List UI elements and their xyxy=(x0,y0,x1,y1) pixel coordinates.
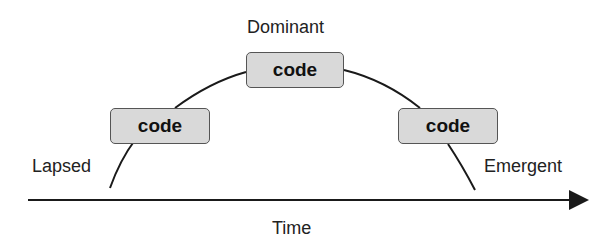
code-box-right: code xyxy=(398,108,498,144)
code-box-left: code xyxy=(110,108,210,144)
time-label: Time xyxy=(272,218,311,239)
emergent-label: Emergent xyxy=(484,156,562,177)
dominant-label: Dominant xyxy=(247,17,324,38)
code-box-middle: code xyxy=(246,52,344,88)
lapsed-label: Lapsed xyxy=(32,156,91,177)
